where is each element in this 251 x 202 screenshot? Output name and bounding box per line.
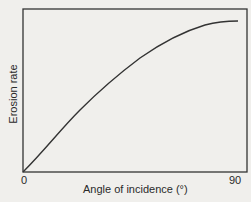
chart-canvas (0, 0, 251, 202)
x-tick-90: 90 (229, 174, 241, 186)
erosion-curve (23, 21, 238, 172)
y-axis-label: Erosion rate (7, 59, 19, 129)
x-axis-label: Angle of incidence (°) (83, 183, 188, 195)
plot-frame (23, 9, 247, 172)
x-tick-0: 0 (21, 174, 27, 186)
